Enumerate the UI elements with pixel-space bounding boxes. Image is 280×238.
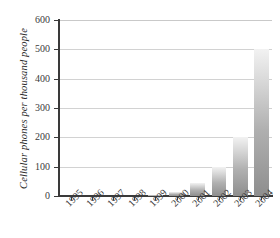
y-axis-tick-label: 0 bbox=[20, 190, 50, 201]
gridline bbox=[60, 20, 272, 21]
y-axis-tick-label: 600 bbox=[20, 14, 50, 25]
y-axis-tick-mark bbox=[54, 49, 60, 50]
y-axis-tick-label: 200 bbox=[20, 131, 50, 142]
bar bbox=[254, 49, 269, 196]
y-axis-tick-label: 400 bbox=[20, 73, 50, 84]
y-axis-tick-mark bbox=[54, 108, 60, 109]
y-axis-tick-mark bbox=[54, 137, 60, 138]
y-axis-tick-label: 100 bbox=[20, 161, 50, 172]
bar-chart: Cellular phones per thousand people 0100… bbox=[0, 0, 280, 238]
gridline bbox=[60, 79, 272, 80]
y-axis-tick-mark bbox=[54, 79, 60, 80]
y-axis-tick-mark bbox=[54, 196, 60, 197]
y-axis-tick-label: 500 bbox=[20, 43, 50, 54]
gridline bbox=[60, 108, 272, 109]
y-axis-tick-mark bbox=[54, 167, 60, 168]
gridline bbox=[60, 49, 272, 50]
y-axis-tick-mark bbox=[54, 20, 60, 21]
y-axis-tick-label: 300 bbox=[20, 102, 50, 113]
